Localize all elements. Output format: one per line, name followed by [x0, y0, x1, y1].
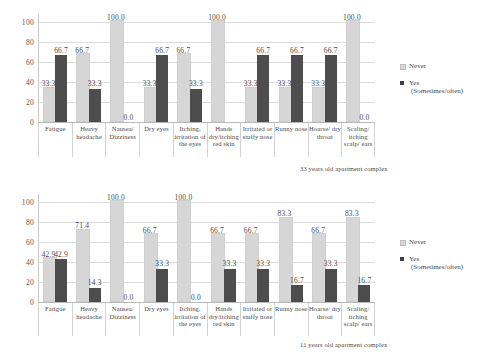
y-axis-line — [38, 14, 39, 122]
bar-value-label: 66.7 — [50, 46, 72, 55]
bar-value-label: 100.0 — [206, 13, 228, 22]
chart-caption: 33 years old apartment complex — [300, 165, 388, 172]
gridline — [38, 202, 375, 203]
bar-value-label: 83.3 — [274, 209, 296, 218]
legend-label-never: Never — [409, 62, 426, 70]
chart-panel-top: 10080604020033.366.766.733.3100.00.033.3… — [0, 0, 481, 178]
bar-value-label: 33.3 — [151, 259, 173, 268]
category-label: Runny nose — [274, 303, 308, 336]
legend-swatch-yes-icon — [400, 257, 404, 261]
gridline — [38, 22, 375, 23]
bar-value-label: 0.0 — [185, 293, 207, 302]
bar-yes — [358, 285, 370, 302]
bar-yes — [89, 288, 101, 302]
bar-value-label: 66.7 — [252, 46, 274, 55]
bar-value-label: 100.0 — [172, 193, 194, 202]
bar-yes — [257, 55, 269, 122]
category-label: Fatigue — [38, 123, 72, 157]
bar-yes — [190, 89, 202, 122]
legend-item-yes: Yes(Sometimes/often) — [400, 255, 463, 271]
category-label: Heavy headache — [72, 123, 106, 157]
bar-value-label: 100.0 — [105, 193, 127, 202]
bar-value-label: 42.9 — [50, 250, 72, 259]
bar-value-label: 66.7 — [286, 46, 308, 55]
legend-item-never: Never — [400, 238, 463, 246]
bar-value-label: 33.3 — [219, 259, 241, 268]
bar-value-label: 66.7 — [206, 226, 228, 235]
category-label: Hoarse/ dry throat — [308, 123, 342, 157]
legend-item-yes: Yes(Sometimes/often) — [400, 79, 463, 95]
category-label: Itching, irritation of the eyes — [173, 123, 207, 157]
bar-value-label: 66.7 — [320, 46, 342, 55]
bar-value-label: 100.0 — [341, 13, 363, 22]
bar-yes — [291, 55, 303, 122]
bar-value-label: 66.7 — [139, 226, 161, 235]
bar-value-label: 33.3 — [320, 259, 342, 268]
bar-yes — [156, 55, 168, 122]
y-axis-tick: 0 — [8, 118, 34, 127]
y-axis-tick: 60 — [8, 58, 34, 67]
bar-yes — [55, 259, 67, 302]
chart-panel-bottom: 10080604020042.942.971.414.3100.00.066.7… — [0, 178, 481, 363]
y-axis-tick: 60 — [8, 238, 34, 247]
bar-never — [110, 200, 124, 302]
category-label: Hands dry/itching red skin — [207, 303, 241, 336]
category-label: Nausea/ Dizziness — [105, 123, 139, 157]
category-label: Scaling/ itching scalp/ ears — [341, 123, 375, 157]
bar-value-label: 0.0 — [353, 113, 375, 122]
category-label: Heavy headache — [72, 303, 106, 336]
bar-value-label: 33.3 — [252, 259, 274, 268]
legend-label-yes: Yes — [409, 255, 419, 263]
legend-label-yes: Yes — [409, 79, 419, 87]
chart-caption: 11 years old apartment complex — [300, 341, 387, 348]
bar-value-label: 0.0 — [118, 113, 140, 122]
bar-yes — [156, 269, 168, 302]
bar-value-label: 33.3 — [84, 79, 106, 88]
category-label: Nausea/ Dizziness — [105, 303, 139, 336]
bar-value-label: 16.7 — [286, 276, 308, 285]
legend-item-never: Never — [400, 62, 463, 70]
y-axis-tick: 20 — [8, 278, 34, 287]
bar-yes — [55, 55, 67, 122]
chart-legend: NeverYes(Sometimes/often) — [400, 238, 463, 280]
category-label: Fatigue — [38, 303, 72, 336]
legend-sublabel-yes: (Sometimes/often) — [409, 263, 463, 271]
category-label: Hoarse/ dry throat — [308, 303, 342, 336]
bar-value-label: 71.4 — [71, 221, 93, 230]
y-axis-tick: 80 — [8, 218, 34, 227]
legend-sublabel-yes: (Sometimes/often) — [409, 87, 463, 95]
y-axis-tick: 100 — [8, 18, 34, 27]
bar-value-label: 0.0 — [118, 293, 140, 302]
legend-swatch-yes-icon — [400, 81, 404, 85]
bar-yes — [257, 269, 269, 302]
y-axis-tick: 80 — [8, 38, 34, 47]
category-label: Runny nose — [274, 123, 308, 157]
bar-value-label: 66.7 — [240, 226, 262, 235]
bar-never — [211, 20, 225, 122]
bar-yes — [224, 269, 236, 302]
bar-value-label: 66.7 — [172, 46, 194, 55]
bar-value-label: 100.0 — [105, 13, 127, 22]
category-label: Irritated or stuffy nose — [240, 123, 274, 157]
y-axis-tick: 40 — [8, 78, 34, 87]
bar-never — [177, 200, 191, 302]
bar-yes — [291, 285, 303, 302]
y-axis-line — [38, 194, 39, 302]
y-axis-tick: 100 — [8, 198, 34, 207]
bar-value-label: 14.3 — [84, 278, 106, 287]
legend-label-never: Never — [409, 238, 426, 246]
bar-value-label: 66.7 — [307, 226, 329, 235]
category-label: Itching, irritation of the eyes — [173, 303, 207, 336]
category-label: Scaling/ itching scalp/ ears — [341, 303, 375, 336]
bar-yes — [325, 269, 337, 302]
chart-legend: NeverYes(Sometimes/often) — [400, 62, 463, 104]
category-label: Irritated or stuffy nose — [240, 303, 274, 336]
category-label: Dry eyes — [139, 123, 173, 157]
y-axis-tick: 40 — [8, 258, 34, 267]
y-axis-tick: 0 — [8, 298, 34, 307]
bar-value-label: 83.3 — [341, 209, 363, 218]
category-label: Dry eyes — [139, 303, 173, 336]
legend-swatch-never-icon — [400, 240, 406, 246]
bar-never — [346, 20, 360, 122]
bar-yes — [325, 55, 337, 122]
